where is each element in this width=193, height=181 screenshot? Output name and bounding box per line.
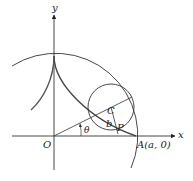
point-label: P [117,123,124,133]
theta-label: θ [84,126,89,135]
x-axis-label: x [178,130,184,140]
astroid-diagram: y x O C b P θ A(a, 0) [0,0,193,181]
origin-label: O [43,140,51,150]
a-point-label: A(a, 0) [137,140,171,150]
fixed-circle-arc [12,53,138,168]
astroid-curve-left [31,56,54,110]
radius-label: b [106,119,112,129]
diagram-canvas [0,0,193,181]
y-axis-label: y [52,3,58,13]
center-label: C [107,106,115,116]
